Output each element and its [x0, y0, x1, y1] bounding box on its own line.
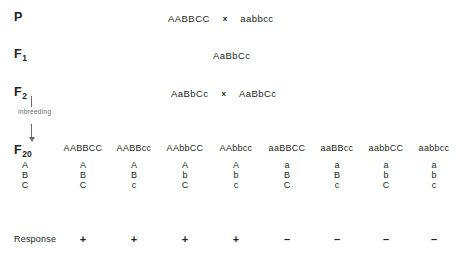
genotype-column-5: aaBBCC a B C: [261, 143, 313, 191]
allele-6-2: B: [311, 170, 363, 180]
allele-4-3: c: [210, 180, 262, 190]
f20-label-allele-1: A: [14, 160, 36, 170]
generation-label-p-text: P: [14, 10, 23, 24]
f1-genotype-row: AaBbCc: [213, 50, 251, 61]
allele-4-1: A: [210, 160, 262, 170]
allele-8-2: b: [408, 170, 460, 180]
genotype-column-7: aabbCC a b C: [360, 143, 412, 191]
allele-5-1: a: [261, 160, 313, 170]
generation-label-f20: F20: [14, 143, 32, 157]
genotype-column-3: AAbbCC A b C: [159, 143, 211, 191]
f1-genotype: AaBbCc: [213, 50, 251, 61]
inbreeding-label: inbreeding: [18, 108, 51, 115]
allele-3-3: C: [159, 180, 211, 190]
allele-stack-6: a B c: [311, 160, 363, 191]
allele-5-3: C: [261, 180, 313, 190]
allele-7-3: C: [360, 180, 412, 190]
allele-2-1: A: [108, 160, 160, 170]
generation-label-p: P: [14, 10, 23, 24]
genotype-header-7: aabbCC: [360, 143, 412, 153]
genotype-header-1: AABBCC: [57, 143, 109, 153]
allele-1-3: C: [57, 180, 109, 190]
genotype-column-6: aaBBcc a B c: [311, 143, 363, 191]
allele-stack-3: A b C: [159, 160, 211, 191]
response-value-1: +: [57, 233, 109, 245]
generation-label-f1-text: F: [14, 47, 22, 61]
allele-stack-5: a B C: [261, 160, 313, 191]
allele-6-3: c: [311, 180, 363, 190]
response-value-4: +: [210, 233, 262, 245]
allele-5-2: B: [261, 170, 313, 180]
generation-label-f1: F1: [14, 47, 27, 61]
response-value-3: +: [159, 233, 211, 245]
response-value-7: –: [360, 233, 412, 245]
f20-label-allele-stack: A B C: [14, 160, 36, 191]
allele-7-1: a: [360, 160, 412, 170]
genotype-header-2: AABBcc: [108, 143, 160, 153]
allele-3-2: b: [159, 170, 211, 180]
allele-1-1: A: [57, 160, 109, 170]
genotype-header-4: AAbbcc: [210, 143, 262, 153]
genotype-header-5: aaBBCC: [261, 143, 313, 153]
allele-2-3: c: [108, 180, 160, 190]
genotype-header-3: AAbbCC: [159, 143, 211, 153]
genotype-header-8: aabbcc: [408, 143, 460, 153]
parental-left-genotype: AABBCC: [168, 13, 210, 24]
allele-stack-7: a b C: [360, 160, 412, 191]
allele-3-1: A: [159, 160, 211, 170]
cross-symbol-f2: x: [209, 89, 239, 98]
allele-7-2: b: [360, 170, 412, 180]
allele-1-2: B: [57, 170, 109, 180]
parental-right-genotype: aabbcc: [240, 13, 273, 24]
f20-label-allele-2: B: [14, 170, 36, 180]
generation-label-f1-subscript: 1: [22, 53, 27, 63]
arrowhead-down-icon: [29, 137, 35, 142]
genotype-column-4: AAbbcc A b c: [210, 143, 262, 191]
allele-stack-2: A B c: [108, 160, 160, 191]
diagram-canvas: P AABBCCxaabbcc F1 AaBbCc F2 AaBbCcxAaBb…: [0, 0, 463, 262]
generation-label-f20-text: F: [14, 143, 22, 157]
response-value-5: –: [261, 233, 313, 245]
allele-6-1: a: [311, 160, 363, 170]
arrow-shaft-upper: [31, 96, 32, 107]
f2-right-genotype: AaBbCc: [239, 88, 277, 99]
allele-stack-4: A b c: [210, 160, 262, 191]
arrow-shaft-lower: [31, 124, 32, 138]
f2-cross-row: AaBbCcxAaBbCc: [171, 88, 277, 99]
response-value-8: –: [408, 233, 460, 245]
inbreeding-arrow: inbreeding: [18, 96, 74, 144]
f2-left-genotype: AaBbCc: [171, 88, 209, 99]
genotype-column-8: aabbcc a b c: [408, 143, 460, 191]
response-value-6: –: [311, 233, 363, 245]
response-row-label: Response: [14, 234, 56, 244]
allele-4-2: b: [210, 170, 262, 180]
allele-2-2: B: [108, 170, 160, 180]
genotype-column-1: AABBCC A B C: [57, 143, 109, 191]
genotype-header-6: aaBBcc: [311, 143, 363, 153]
allele-stack-8: a b c: [408, 160, 460, 191]
parental-cross-row: AABBCCxaabbcc: [168, 13, 274, 24]
genotype-column-2: AABBcc A B c: [108, 143, 160, 191]
generation-label-f20-subscript: 20: [22, 149, 32, 159]
cross-symbol-parental: x: [210, 14, 240, 23]
allele-stack-1: A B C: [57, 160, 109, 191]
response-value-2: +: [108, 233, 160, 245]
f20-label-allele-3: C: [14, 180, 36, 190]
allele-8-1: a: [408, 160, 460, 170]
allele-8-3: c: [408, 180, 460, 190]
